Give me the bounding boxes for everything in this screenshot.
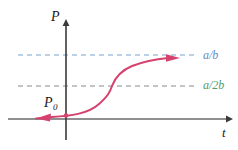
half-asymptote-label: a/2b bbox=[203, 79, 224, 91]
initial-value-point bbox=[64, 113, 68, 117]
initial-value-symbol: P bbox=[44, 95, 53, 110]
vertical-axis-arrowhead bbox=[63, 19, 70, 26]
horizontal-axis-arrowhead bbox=[226, 116, 233, 123]
logistic-growth-figure: P t P0 a/b a/2b bbox=[0, 0, 238, 150]
initial-value-label: P0 bbox=[44, 96, 58, 112]
logistic-curve-path bbox=[52, 58, 168, 117]
upper-asymptote-label: a/b bbox=[203, 49, 218, 61]
horizontal-axis-label: t bbox=[222, 126, 226, 139]
vertical-axis-label: P bbox=[51, 10, 60, 24]
initial-value-subscript: 0 bbox=[53, 102, 58, 112]
figure-canvas bbox=[0, 0, 238, 150]
